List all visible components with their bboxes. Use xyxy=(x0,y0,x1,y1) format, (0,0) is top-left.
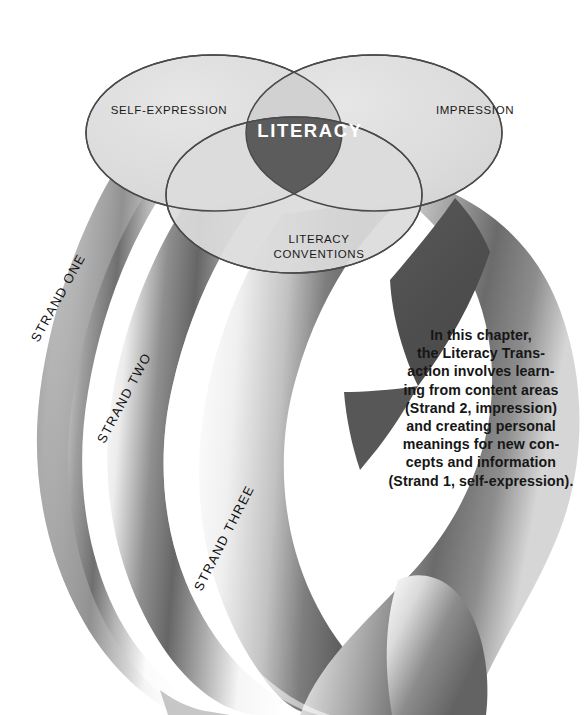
chapter-caption-text: In this chapter, the Literacy Trans- act… xyxy=(386,326,576,490)
venn-label-impression: IMPRESSION xyxy=(436,104,514,116)
venn-label-self-expression: SELF-EXPRESSION xyxy=(111,104,227,116)
venn-label-literacy-center: LITERACY xyxy=(257,120,362,141)
figure-canvas: SELF-EXPRESSION IMPRESSION LITERACY CONV… xyxy=(0,0,587,715)
venn-label-literacy-conventions-line1: LITERACY xyxy=(288,233,349,245)
venn-label-literacy-conventions-line2: CONVENTIONS xyxy=(274,248,365,260)
